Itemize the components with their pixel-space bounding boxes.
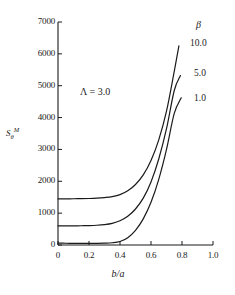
x-tick-label: 0 <box>44 250 72 260</box>
y-tick-label: 4000 <box>38 112 55 122</box>
y-tick-label: 2000 <box>38 175 55 185</box>
y-axis-label: SθM <box>6 126 19 140</box>
y-axis-label-superscript: M <box>14 126 19 133</box>
curve-beta-5.0 <box>58 76 180 226</box>
axes <box>58 22 213 245</box>
y-tick-label: 5000 <box>38 80 55 90</box>
x-tick-label: 0.6 <box>137 250 165 260</box>
y-tick-marks <box>58 22 62 245</box>
x-tick-label: 0.4 <box>106 250 134 260</box>
x-tick-label: 0.2 <box>75 250 103 260</box>
legend-title: β <box>196 19 201 30</box>
legend-entry-beta-1: 1.0 <box>194 93 206 103</box>
y-tick-label: 6000 <box>38 48 55 58</box>
y-tick-label: 7000 <box>38 16 55 26</box>
x-tick-label: 1.0 <box>199 250 227 260</box>
x-tick-label: 0.8 <box>168 250 196 260</box>
legend-entry-beta-5: 5.0 <box>194 68 206 78</box>
lambda-annotation: Λ = 3.0 <box>80 86 110 97</box>
chart-figure: SθM b/a Λ = 3.0 β 10.0 5.0 1.0 010002000… <box>0 0 235 295</box>
x-axis-label: b/a <box>112 268 125 279</box>
y-tick-label: 0 <box>51 239 55 249</box>
legend-entry-beta-10: 10.0 <box>190 38 207 48</box>
y-tick-label: 3000 <box>38 143 55 153</box>
curve-beta-10.0 <box>58 46 179 199</box>
data-curves <box>58 46 181 244</box>
y-tick-label: 1000 <box>38 207 55 217</box>
y-axis-label-subscript: θ <box>11 133 14 140</box>
